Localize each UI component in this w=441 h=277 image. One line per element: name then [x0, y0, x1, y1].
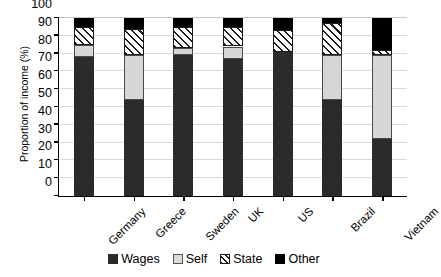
bar-segment-uk-state[interactable]: [223, 27, 243, 47]
bar-group-greece[interactable]: [124, 18, 144, 196]
y-tick-label-70: 70: [38, 50, 52, 64]
legend-item-wages[interactable]: Wages: [108, 252, 159, 266]
bar-segment-greece-wages[interactable]: [124, 100, 144, 196]
y-tick-label-10: 10: [38, 157, 52, 171]
x-tick-label-germany: Germany: [106, 205, 148, 247]
x-tick-mark-us: [283, 196, 284, 201]
bar-segment-us-wages[interactable]: [273, 52, 293, 196]
legend-item-other[interactable]: Other: [275, 252, 319, 266]
bar-segment-germany-self[interactable]: [74, 45, 94, 57]
bar-segment-vietnam-wages[interactable]: [372, 139, 392, 196]
x-tick-mark-sweden: [183, 196, 184, 201]
chart-legend: WagesSelfStateOther: [0, 252, 428, 266]
bar-group-us[interactable]: [273, 18, 293, 196]
x-tick-label-uk: UK: [246, 205, 266, 225]
x-tick-mark-uk: [233, 196, 234, 201]
bar-series-layer: [59, 18, 407, 196]
legend-label: Other: [288, 252, 319, 266]
y-tick-label-60: 60: [38, 68, 52, 82]
legend-swatch-state-icon: [220, 254, 230, 264]
x-tick-label-us: US: [295, 205, 315, 225]
bar-segment-greece-other[interactable]: [124, 18, 144, 29]
bar-segment-uk-self[interactable]: [223, 47, 243, 59]
bar-segment-vietnam-self[interactable]: [372, 55, 392, 139]
y-tick-label-20: 20: [38, 139, 52, 153]
plot-area: 0102030405060708090100 GermanyGreeceSwed…: [58, 18, 407, 197]
y-tick-label-90: 90: [38, 15, 52, 29]
bar-segment-germany-other[interactable]: [74, 18, 94, 27]
y-tick-label-0: 0: [45, 175, 52, 189]
x-tick-mark-vietnam: [382, 196, 383, 201]
bar-segment-brazil-wages[interactable]: [322, 100, 342, 196]
y-tick-label-100: 100: [31, 0, 52, 11]
bar-segment-brazil-state[interactable]: [322, 23, 342, 55]
x-tick-label-brazil: Brazil: [349, 205, 378, 234]
bar-segment-vietnam-state[interactable]: [372, 50, 392, 55]
bar-segment-us-state[interactable]: [273, 30, 293, 51]
legend-swatch-self-icon: [173, 254, 183, 264]
bar-segment-brazil-other[interactable]: [322, 18, 342, 23]
y-tick-label-30: 30: [38, 122, 52, 136]
legend-item-self[interactable]: Self: [173, 252, 208, 266]
y-axis-title: Proportion of income (%): [18, 14, 30, 194]
y-tick-label-50: 50: [38, 86, 52, 100]
legend-label: Self: [186, 252, 208, 266]
bar-group-vietnam[interactable]: [372, 18, 392, 196]
bar-segment-greece-self[interactable]: [124, 55, 144, 100]
bar-segment-vietnam-other[interactable]: [372, 18, 392, 50]
bar-segment-germany-wages[interactable]: [74, 57, 94, 196]
legend-swatch-other-icon: [275, 254, 285, 264]
bar-segment-sweden-state[interactable]: [173, 27, 193, 48]
bar-segment-uk-wages[interactable]: [223, 59, 243, 196]
legend-label: State: [233, 252, 262, 266]
bar-segment-germany-state[interactable]: [74, 27, 94, 45]
bar-segment-sweden-other[interactable]: [173, 18, 193, 27]
bar-segment-brazil-self[interactable]: [322, 55, 342, 100]
legend-item-state[interactable]: State: [220, 252, 262, 266]
legend-label: Wages: [121, 252, 159, 266]
legend-swatch-wages-icon: [108, 254, 118, 264]
bar-group-brazil[interactable]: [322, 18, 342, 196]
y-tick-label-40: 40: [38, 104, 52, 118]
bar-segment-greece-state[interactable]: [124, 29, 144, 56]
x-tick-mark-germany: [84, 196, 85, 201]
x-tick-label-sweden: Sweden: [203, 205, 241, 243]
x-tick-label-vietnam: Vietnam: [402, 205, 440, 243]
x-tick-label-greece: Greece: [153, 205, 188, 240]
bar-segment-uk-other[interactable]: [223, 18, 243, 27]
bar-group-uk[interactable]: [223, 18, 243, 196]
bar-segment-us-other[interactable]: [273, 18, 293, 30]
bar-segment-sweden-self[interactable]: [173, 48, 193, 55]
x-tick-mark-greece: [134, 196, 135, 201]
bar-segment-sweden-wages[interactable]: [173, 55, 193, 196]
bar-group-germany[interactable]: [74, 18, 94, 196]
y-tick-label-80: 80: [38, 33, 52, 47]
bar-group-sweden[interactable]: [173, 18, 193, 196]
x-tick-mark-brazil: [332, 196, 333, 201]
